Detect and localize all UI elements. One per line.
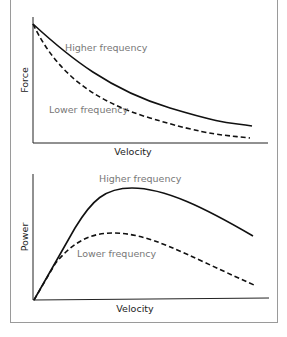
y-axis-label: Force bbox=[19, 67, 30, 93]
force-velocity-chart: Higher frequency Lower frequency Velocit… bbox=[19, 17, 268, 157]
x-axis bbox=[33, 298, 269, 300]
figure-svg: Higher frequency Lower frequency Velocit… bbox=[0, 0, 287, 337]
x-axis-label: Velocity bbox=[116, 303, 154, 314]
power-velocity-chart: Higher frequency Lower frequency Velocit… bbox=[19, 173, 269, 314]
y-axis-label: Power bbox=[19, 223, 30, 252]
label-lower-frequency: Lower frequency bbox=[77, 248, 157, 259]
x-axis-label: Velocity bbox=[114, 146, 152, 157]
label-higher-frequency: Higher frequency bbox=[65, 42, 148, 53]
label-lower-frequency: Lower frequency bbox=[49, 104, 129, 115]
higher-frequency-line bbox=[34, 188, 253, 300]
label-higher-frequency: Higher frequency bbox=[99, 173, 182, 184]
